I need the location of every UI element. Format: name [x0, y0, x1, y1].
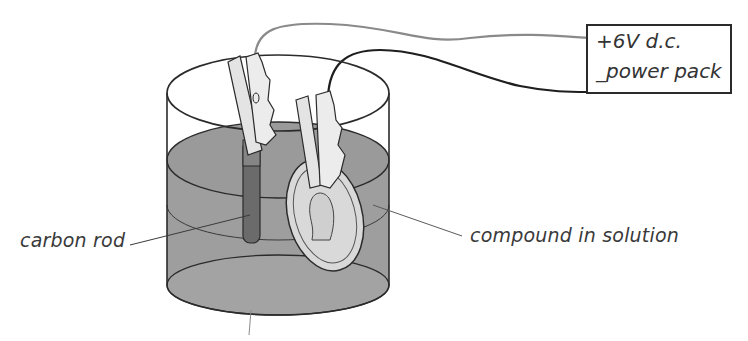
compound-label: compound in solution [470, 224, 679, 246]
carbon-rod-label: carbon rod [20, 229, 125, 251]
power-pack: +6V d.c. _power pack [586, 24, 732, 94]
negative-wire [328, 50, 588, 96]
power-pack-positive-label: +6V d.c. [596, 29, 682, 53]
beaker-rim [167, 55, 389, 131]
liquid-surface [167, 122, 389, 198]
electrolysis-diagram: +6V d.c. _power pack carbon rod compound… [0, 0, 748, 341]
beaker [167, 55, 389, 315]
power-pack-negative-label: _power pack [596, 59, 722, 83]
positive-wire [255, 24, 588, 55]
carbon-rod [243, 140, 260, 243]
